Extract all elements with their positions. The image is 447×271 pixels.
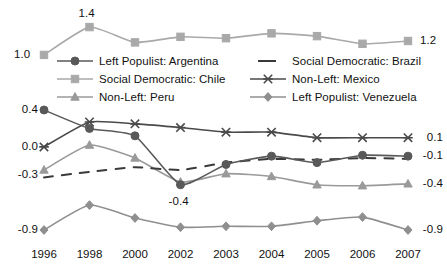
y-axis-left-tick-3: -0.9: [18, 223, 38, 235]
legend-marker-square-icon: [56, 72, 94, 86]
y-axis-right-tick-1: -0.1: [423, 149, 443, 161]
argentina-low-annotation: -0.4: [169, 195, 189, 207]
top-panel-peak-label: 1.4: [79, 7, 95, 19]
legend-label-peru: Non-Left: Peru: [99, 91, 175, 103]
legend-item-brazil: Social Democratic: Brazil: [249, 52, 447, 69]
x-axis-tick-2006: 2006: [341, 248, 385, 260]
legend-label-chile: Social Democratic: Chile: [99, 73, 225, 85]
legend-label-venezuela: Left Populist: Venezuela: [292, 91, 417, 103]
x-axis-tick-2000: 2000: [113, 248, 157, 260]
series-venezuela: [40, 201, 412, 235]
chart-plot-area: [0, 0, 447, 271]
y-axis-left-tick-2: -0.3: [18, 168, 38, 180]
legend-item-argentina: Left Populist: Argentina: [56, 52, 256, 69]
x-axis-tick-2003: 2003: [204, 248, 248, 260]
y-axis-left-tick-1: 0.0: [22, 140, 38, 152]
legend-marker-circle-icon: [56, 54, 94, 68]
legend-label-brazil: Social Democratic: Brazil: [292, 55, 421, 67]
legend-item-mexico: Non-Left: Mexico: [249, 70, 447, 87]
legend-marker-diamond-icon: [249, 90, 287, 104]
x-axis-tick-2004: 2004: [250, 248, 294, 260]
y-axis-right-tick-2: -0.4: [423, 177, 443, 189]
y-axis-left-tick-0: 0.4: [22, 103, 38, 115]
legend-label-mexico: Non-Left: Mexico: [292, 73, 380, 85]
legend-marker-x-icon: [249, 72, 287, 86]
y-axis-right-tick-0: 0.1: [427, 131, 443, 143]
legend-marker-dashed-line-icon: [249, 54, 287, 68]
chart-legend: Left Populist: Argentina Social Democrat…: [56, 52, 447, 104]
x-axis-tick-1996: 1996: [22, 248, 66, 260]
legend-item-peru: Non-Left: Peru: [56, 88, 256, 105]
top-panel-end-label: 1.2: [420, 34, 436, 46]
x-axis-tick-2005: 2005: [295, 248, 339, 260]
x-axis-tick-1998: 1998: [68, 248, 112, 260]
legend-label-argentina: Left Populist: Argentina: [99, 55, 218, 67]
legend-item-venezuela: Left Populist: Venezuela: [249, 88, 447, 105]
series-mexico-line: [44, 121, 408, 147]
x-axis-tick-2007: 2007: [386, 248, 430, 260]
y-axis-right-tick-3: -0.9: [423, 223, 443, 235]
chart-container: 1.0 1.4 1.2 0.4 0.0 -0.3 -0.9 0.1 -0.1 -…: [0, 0, 447, 271]
top-panel-start-label: 1.0: [14, 48, 30, 60]
legend-marker-triangle-icon: [56, 90, 94, 104]
legend-item-chile: Social Democratic: Chile: [56, 70, 256, 87]
x-axis-tick-2002: 2002: [159, 248, 203, 260]
